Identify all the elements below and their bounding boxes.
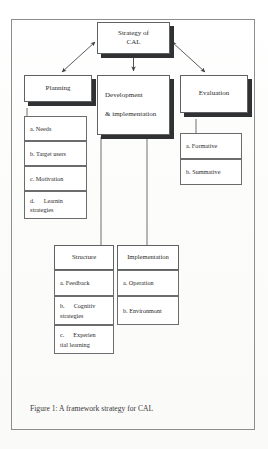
node-planning[interactable]: Planning [24,75,92,102]
structure-item-feedback-label: a. Feedback [55,278,113,287]
evaluation-item-summative[interactable]: b. Summative [180,159,242,185]
planning-item-learning-strategies-label: d.Learnin strategies [25,196,86,215]
structure-item-experiential-learning[interactable]: c.Experien tial learning [54,325,114,354]
node-planning-label: Planning [25,84,91,93]
structure-item-cognitive-strategies[interactable]: b.Cognitiv strategies [54,296,114,325]
evaluation-item-summative-label: b. Summative [181,167,241,176]
planning-item-learning-strategies[interactable]: d.Learnin strategies [24,191,87,219]
node-implementation-label: Implementation [118,253,178,262]
node-strategy-of-cal[interactable]: Strategy of CAL [97,22,170,54]
node-development-implementation[interactable]: Development & implementation [97,75,170,135]
implementation-item-operation-label: a. Operation [118,278,178,287]
implementation-item-operation[interactable]: a. Operation [117,270,179,296]
planning-item-target-users-label: b. Target users [25,149,86,158]
node-evaluation-label: Evaluation [181,89,247,98]
figure-caption: Figure 1: A framework strategy for CAL [30,404,153,413]
evaluation-item-formative[interactable]: a. Formative [180,133,242,159]
planning-item-needs-label: a. Needs [25,124,86,133]
structure-item-cognitive-strategies-label: b.Cognitiv strategies [55,301,113,320]
node-implementation[interactable]: Implementation [117,245,179,270]
planning-item-target-users[interactable]: b. Target users [24,141,87,166]
node-structure[interactable]: Structure [54,245,114,270]
planning-item-motivation[interactable]: c. Motivation [24,166,87,191]
implementation-item-environment[interactable]: b. Environmont [117,296,179,325]
figure-page: Strategy of CAL Planning a. Needs b. Tar… [0,0,268,449]
planning-item-needs[interactable]: a. Needs [24,116,87,141]
implementation-item-environment-label: b. Environmont [118,306,178,315]
planning-item-motivation-label: c. Motivation [25,174,86,183]
structure-item-experiential-learning-label: c.Experien tial learning [55,330,113,349]
node-development-implementation-label: Development & implementation [98,91,169,119]
node-strategy-of-cal-label: Strategy of CAL [98,29,169,48]
structure-item-feedback[interactable]: a. Feedback [54,270,114,296]
evaluation-item-formative-label: a. Formative [181,141,241,150]
node-structure-label: Structure [55,253,113,262]
node-evaluation[interactable]: Evaluation [180,75,248,113]
